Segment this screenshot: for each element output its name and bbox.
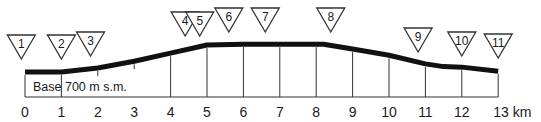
km-tick-label: 8 — [312, 104, 320, 120]
station-number: 1 — [18, 37, 25, 51]
station-number: 11 — [492, 36, 505, 50]
profile-line — [25, 44, 498, 72]
station-number: 8 — [327, 10, 334, 24]
base-altitude-label: Base 700 m s.m. — [33, 80, 127, 94]
km-tick-label: 6 — [240, 104, 248, 120]
km-tick-label: 13 km — [493, 104, 531, 120]
station-marker-10: 10 — [448, 32, 476, 56]
km-tick-label: 4 — [167, 104, 175, 120]
station-marker-2: 2 — [47, 35, 75, 59]
km-tick-label: 12 — [454, 104, 470, 120]
station-number: 6 — [225, 10, 232, 24]
km-tick-label: 9 — [349, 104, 357, 120]
station-number: 5 — [196, 14, 203, 28]
km-tick-label: 11 — [418, 104, 433, 120]
station-marker-8: 8 — [317, 8, 345, 32]
station-markers: 1234567891011 — [7, 8, 512, 59]
station-number: 7 — [262, 10, 269, 24]
station-marker-3: 3 — [77, 32, 105, 56]
station-marker-6: 6 — [215, 8, 243, 32]
station-number: 2 — [58, 37, 65, 51]
km-tick-label: 2 — [94, 104, 102, 120]
station-number: 9 — [415, 30, 422, 44]
station-marker-11: 11 — [484, 34, 512, 58]
km-tick-label: 7 — [276, 104, 284, 120]
km-axis-labels: 012345678910111213 km — [21, 104, 531, 120]
station-marker-1: 1 — [7, 35, 35, 59]
station-number: 10 — [455, 34, 469, 48]
km-tick-label: 0 — [21, 104, 29, 120]
km-tick-label: 3 — [130, 104, 138, 120]
station-marker-7: 7 — [251, 8, 279, 32]
station-number: 3 — [87, 34, 94, 48]
km-tick-label: 5 — [203, 104, 211, 120]
station-marker-9: 9 — [404, 28, 432, 52]
elevation-profile-line — [25, 44, 498, 72]
km-tick-label: 1 — [58, 104, 66, 120]
elevation-profile-diagram: 012345678910111213 km 1234567891011 Base… — [0, 0, 541, 122]
km-tick-label: 10 — [381, 104, 397, 120]
